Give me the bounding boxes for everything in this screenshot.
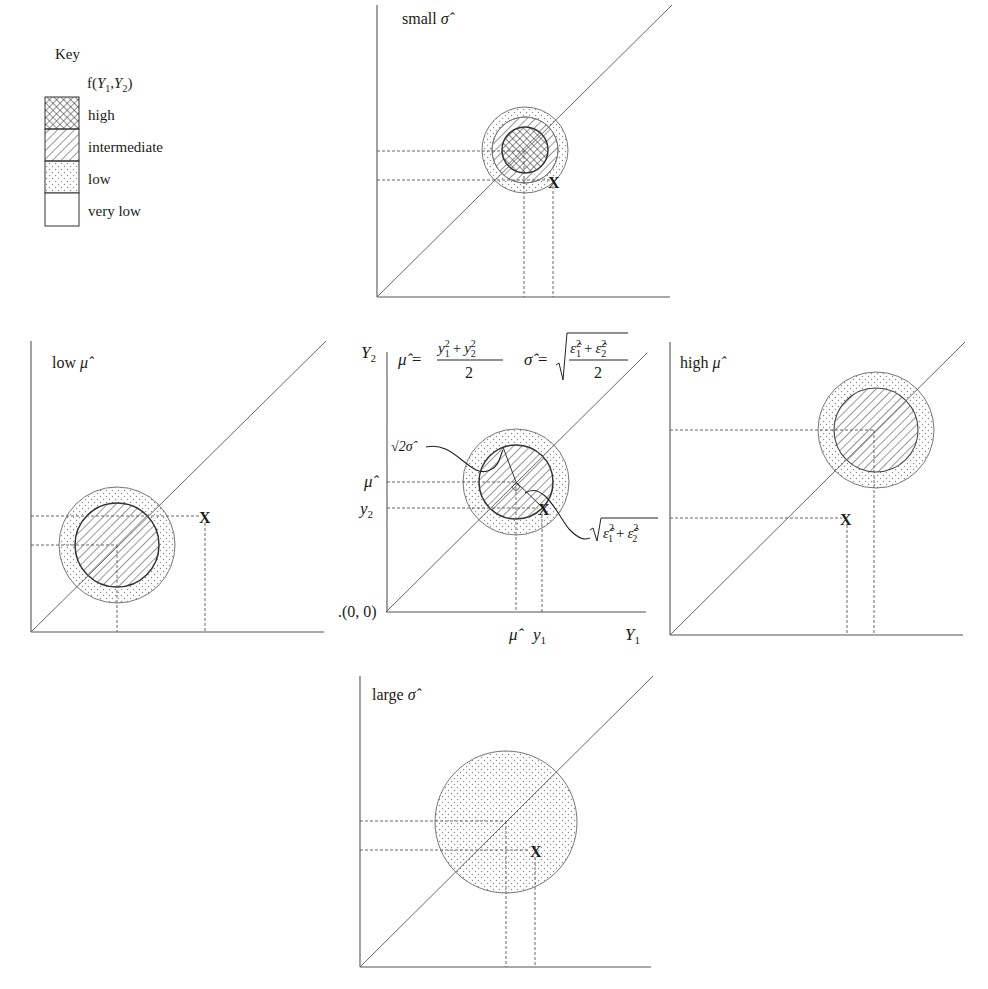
legend-label-high: high (88, 107, 115, 123)
legend-swatch-intermediate (45, 129, 79, 161)
equality-line (31, 341, 326, 632)
panel-high-mu: X high μ̂ (670, 342, 965, 635)
panel-low-mu: X low μ̂ (31, 341, 326, 632)
panel-title: high μ̂ (680, 354, 726, 372)
y1-label: y1 (531, 625, 546, 646)
svg-text:ε̂21+ε̂22: ε̂21+ε̂22 (570, 338, 607, 359)
equality-line (360, 676, 653, 967)
svg-text:ε̂21+ε̂22: ε̂21+ε̂22 (603, 522, 639, 544)
svg-text:μ̂ =: μ̂ = (397, 350, 422, 369)
data-point-x: X (840, 511, 852, 528)
data-point-x: X (548, 174, 560, 191)
legend-swatch-low (45, 161, 79, 193)
legend-title: Key (55, 46, 80, 62)
svg-text:2: 2 (594, 364, 602, 381)
radius-label: √2σ̂ (391, 439, 419, 454)
panel-title: low μ̂ (52, 354, 94, 372)
x-axis-label: Y1 (625, 625, 640, 646)
svg-text:y21+y22: y21+y22 (436, 338, 476, 359)
y-axis-label: Y2 (361, 343, 376, 364)
legend-swatch-high (45, 97, 79, 129)
legend-label-very-low: very low (88, 203, 141, 219)
mu-hat-x-label: μ̂ (508, 625, 525, 644)
panel-center: X Y2 Y1 .(0, 0) μ̂ y2 μ̂ y1 √2σ̂ ε̂21+ε̂… (338, 333, 658, 646)
equality-line (670, 342, 965, 635)
legend: Key f(Y1,Y2) high intermediate low very … (45, 46, 163, 226)
distance-label: ε̂21+ε̂22 (590, 518, 658, 544)
legend-swatch-very-low (45, 193, 79, 226)
legend-label-low: low (88, 171, 111, 187)
legend-label-intermediate: intermediate (88, 139, 163, 155)
mu-hat-y-label: μ̂ (363, 472, 380, 491)
panel-large-sigma: X large σ̂ (360, 676, 653, 967)
svg-text:σ̂ =: σ̂ = (524, 350, 548, 369)
y2-label: y2 (358, 499, 373, 520)
panel-title: small σ̂ (402, 10, 455, 27)
density-diagram: Key f(Y1,Y2) high intermediate low very … (0, 0, 988, 989)
formula-mu-hat: μ̂ = y21+y22 2 (397, 338, 503, 381)
panel-title: large σ̂ (372, 686, 422, 704)
panel-small-sigma: X small σ̂ (377, 5, 672, 297)
svg-text:2: 2 (465, 364, 473, 381)
data-point-x: X (199, 509, 211, 526)
origin-label: .(0, 0) (338, 603, 377, 621)
legend-subtitle: f(Y1,Y2) (87, 75, 132, 94)
data-point-x: X (530, 843, 542, 860)
data-point-x: X (538, 501, 550, 518)
formula-sigma-hat: σ̂ = ε̂21+ε̂22 2 (524, 333, 628, 381)
